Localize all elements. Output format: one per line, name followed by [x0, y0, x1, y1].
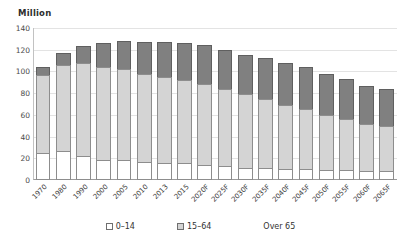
- bar-segment-0-14: [56, 151, 71, 180]
- stacked-bar[interactable]: [278, 63, 293, 180]
- bar-segment-over-65: [157, 42, 172, 77]
- bar-segment-over-65: [218, 50, 233, 89]
- bar-segment-15-64: [96, 67, 111, 160]
- stacked-bar[interactable]: [339, 79, 354, 180]
- stacked-bar[interactable]: [137, 42, 152, 180]
- stacked-bar[interactable]: [238, 55, 253, 180]
- y-axis-unit-label: Million: [18, 8, 51, 18]
- stacked-bar[interactable]: [258, 58, 273, 180]
- x-axis-tick-label: 2000: [91, 183, 109, 201]
- bar-segment-0-14: [76, 156, 91, 180]
- y-axis-tick-label: 40: [4, 132, 30, 141]
- bar-segment-0-14: [96, 160, 111, 180]
- bar-segment-15-64: [117, 69, 132, 160]
- bar-segment-15-64: [137, 74, 152, 162]
- bar-segment-15-64: [157, 77, 172, 163]
- bar-segment-0-14: [238, 168, 253, 180]
- legend-item[interactable]: 15–64: [177, 222, 211, 231]
- bar-segment-over-65: [56, 53, 71, 65]
- bar-slot: [316, 28, 336, 180]
- x-label-slot: 2010: [134, 181, 154, 215]
- bar-segment-over-65: [36, 67, 51, 75]
- bar-segment-over-65: [96, 43, 111, 67]
- bar-segment-0-14: [379, 171, 394, 180]
- stacked-bar[interactable]: [76, 46, 91, 180]
- bar-slot: [255, 28, 275, 180]
- x-axis-tick-label: 2005: [112, 183, 130, 201]
- y-axis-tick-label: 20: [4, 154, 30, 163]
- stacked-bar[interactable]: [177, 43, 192, 180]
- bar-segment-15-64: [359, 124, 374, 172]
- stacked-bar[interactable]: [157, 42, 172, 180]
- bar-segment-0-14: [117, 160, 132, 180]
- bar-segment-over-65: [177, 43, 192, 80]
- bar-slot: [357, 28, 377, 180]
- bars-layer: [33, 28, 397, 180]
- x-label-slot: 2013: [154, 181, 174, 215]
- x-label-slot: 1990: [73, 181, 93, 215]
- bar-segment-0-14: [157, 163, 172, 180]
- bar-segment-15-64: [197, 84, 212, 164]
- stacked-bar[interactable]: [218, 50, 233, 180]
- stacked-bar[interactable]: [359, 86, 374, 180]
- stacked-bar[interactable]: [379, 89, 394, 180]
- bar-slot: [53, 28, 73, 180]
- bar-slot: [94, 28, 114, 180]
- x-axis-tick-label: 1990: [71, 183, 89, 201]
- bar-segment-0-14: [299, 169, 314, 180]
- x-axis-tick-label: 1970: [31, 183, 49, 201]
- x-label-slot: 2005: [114, 181, 134, 215]
- bar-segment-over-65: [359, 86, 374, 124]
- x-label-slot: 1970: [33, 181, 53, 215]
- bar-slot: [134, 28, 154, 180]
- bar-segment-15-64: [319, 115, 334, 170]
- bar-segment-0-14: [278, 169, 293, 180]
- stacked-bar[interactable]: [56, 53, 71, 180]
- bar-segment-0-14: [137, 162, 152, 180]
- bar-slot: [276, 28, 296, 180]
- bar-segment-over-65: [319, 74, 334, 115]
- stacked-bar[interactable]: [299, 67, 314, 180]
- y-axis-tick-labels: 020406080100120140: [0, 28, 30, 180]
- legend-swatch-icon: [177, 223, 184, 230]
- population-stacked-bar-chart: Million 020406080100120140 1970198019902…: [0, 0, 401, 243]
- bar-slot: [195, 28, 215, 180]
- bar-segment-over-65: [137, 42, 152, 73]
- x-label-slot: 1980: [53, 181, 73, 215]
- bar-segment-15-64: [56, 65, 71, 151]
- stacked-bar[interactable]: [117, 41, 132, 180]
- bar-segment-over-65: [117, 41, 132, 69]
- stacked-bar[interactable]: [96, 43, 111, 180]
- stacked-bar[interactable]: [319, 74, 334, 180]
- bar-segment-15-64: [258, 99, 273, 168]
- bar-slot: [296, 28, 316, 180]
- stacked-bar[interactable]: [36, 67, 51, 180]
- bar-segment-over-65: [197, 45, 212, 84]
- bar-segment-over-65: [258, 58, 273, 98]
- legend-item[interactable]: Over 65: [253, 222, 295, 231]
- bar-segment-15-64: [177, 80, 192, 163]
- x-axis-tick-label: 1980: [51, 183, 69, 201]
- bar-segment-15-64: [379, 126, 394, 172]
- bar-slot: [175, 28, 195, 180]
- bar-segment-0-14: [319, 170, 334, 180]
- bar-segment-0-14: [339, 170, 354, 180]
- y-axis-tick-label: 100: [4, 67, 30, 76]
- bar-slot: [235, 28, 255, 180]
- bar-segment-15-64: [299, 109, 314, 169]
- stacked-bar[interactable]: [197, 45, 212, 180]
- bar-segment-0-14: [177, 163, 192, 180]
- x-axis-tick-labels: 197019801990200020052010201320152020F202…: [33, 181, 397, 215]
- bar-slot: [33, 28, 53, 180]
- legend-label: 15–64: [187, 222, 211, 231]
- bar-segment-15-64: [76, 63, 91, 156]
- bar-segment-over-65: [238, 55, 253, 94]
- bar-slot: [336, 28, 356, 180]
- legend-swatch-icon: [253, 223, 260, 230]
- bar-slot: [154, 28, 174, 180]
- bar-segment-over-65: [278, 63, 293, 105]
- y-axis-tick-label: 60: [4, 110, 30, 119]
- bar-segment-0-14: [359, 171, 374, 180]
- y-axis-tick-label: 0: [4, 176, 30, 185]
- legend-item[interactable]: 0–14: [106, 222, 135, 231]
